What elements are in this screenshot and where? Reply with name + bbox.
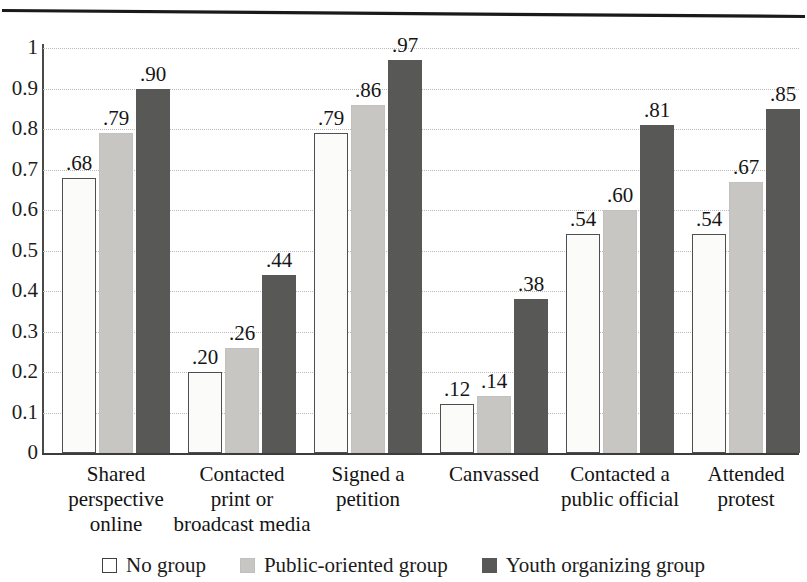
x-axis-line bbox=[42, 453, 799, 455]
bar-4-2 bbox=[640, 125, 674, 453]
bar-3-1 bbox=[477, 396, 511, 453]
bar-4-0 bbox=[566, 234, 600, 453]
category-label-0: Sharedperspectiveonline bbox=[47, 462, 185, 537]
legend-item-1[interactable]: Public-oriented group bbox=[240, 553, 448, 577]
bar-value-label-3-2: .38 bbox=[504, 274, 558, 295]
legend-swatch-icon-0 bbox=[102, 558, 117, 573]
bar-value-label-4-0: .54 bbox=[556, 209, 610, 230]
chart-legend: No groupPublic-oriented groupYouth organ… bbox=[0, 548, 807, 582]
bar-0-0 bbox=[62, 178, 96, 453]
category-label-2: Signed apetition bbox=[299, 462, 437, 512]
bar-1-1 bbox=[225, 348, 259, 453]
y-axis-tick-9: 0.1 bbox=[2, 402, 38, 423]
bar-value-label-2-2: .97 bbox=[378, 35, 432, 56]
y-axis-tick-2: 0.8 bbox=[2, 118, 38, 139]
y-axis-tick-5: 0.5 bbox=[2, 240, 38, 261]
bar-value-label-1-1: .26 bbox=[215, 323, 269, 344]
y-axis-tick-8: 0.2 bbox=[2, 361, 38, 382]
category-label-line: online bbox=[47, 512, 185, 537]
category-label-line: Attended bbox=[677, 462, 807, 487]
y-axis-tick-1: 0.9 bbox=[2, 78, 38, 99]
category-label-line: broadcast media bbox=[173, 512, 311, 537]
y-axis-tick-6: 0.4 bbox=[2, 280, 38, 301]
category-label-1: Contactedprint orbroadcast media bbox=[173, 462, 311, 537]
bar-2-1 bbox=[351, 105, 385, 453]
legend-item-2[interactable]: Youth organizing group bbox=[482, 553, 705, 577]
category-label-line: Shared bbox=[47, 462, 185, 487]
bar-5-1 bbox=[729, 182, 763, 453]
category-label-4: Contacted apublic official bbox=[551, 462, 689, 512]
category-label-line: petition bbox=[299, 487, 437, 512]
y-axis-tick-4: 0.6 bbox=[2, 199, 38, 220]
y-axis-tick-10: 0 bbox=[2, 442, 38, 463]
bar-value-label-2-1: .86 bbox=[341, 80, 395, 101]
bar-value-label-1-2: .44 bbox=[252, 250, 306, 271]
legend-label-0: No group bbox=[126, 553, 206, 577]
bar-4-1 bbox=[603, 210, 637, 453]
plot-area: .68.79.90.20.26.44.79.86.97.12.14.38.54.… bbox=[43, 48, 799, 453]
category-label-line: Canvassed bbox=[425, 462, 563, 487]
bar-1-2 bbox=[262, 275, 296, 453]
category-label-line: Signed a bbox=[299, 462, 437, 487]
bar-value-label-0-2: .90 bbox=[126, 64, 180, 85]
bar-3-2 bbox=[514, 299, 548, 453]
category-label-line: protest bbox=[677, 487, 807, 512]
category-label-5: Attendedprotest bbox=[677, 462, 807, 512]
bar-value-label-0-0: .68 bbox=[52, 153, 106, 174]
bar-2-2 bbox=[388, 60, 422, 453]
bar-value-label-5-0: .54 bbox=[682, 209, 736, 230]
category-label-3: Canvassed bbox=[425, 462, 563, 487]
category-label-line: Contacted bbox=[173, 462, 311, 487]
category-label-line: public official bbox=[551, 487, 689, 512]
legend-label-2: Youth organizing group bbox=[506, 553, 705, 577]
bar-value-label-2-0: .79 bbox=[304, 108, 358, 129]
bar-chart-figure: 10.90.80.70.60.50.40.30.20.10 .68.79.90.… bbox=[0, 0, 807, 582]
legend-swatch-icon-1 bbox=[240, 558, 255, 573]
bar-value-label-1-0: .20 bbox=[178, 347, 232, 368]
bar-3-0 bbox=[440, 404, 474, 453]
y-axis-tick-0: 1 bbox=[2, 37, 38, 58]
y-axis-tick-labels: 10.90.80.70.60.50.40.30.20.10 bbox=[0, 0, 38, 582]
bar-value-label-4-2: .81 bbox=[630, 100, 684, 121]
bar-value-label-3-1: .14 bbox=[467, 371, 521, 392]
bar-value-label-5-2: .85 bbox=[756, 84, 807, 105]
bar-2-0 bbox=[314, 133, 348, 453]
bar-0-2 bbox=[136, 89, 170, 454]
bar-value-label-0-1: .79 bbox=[89, 108, 143, 129]
bar-5-2 bbox=[766, 109, 800, 453]
bar-value-label-4-1: .60 bbox=[593, 185, 647, 206]
legend-swatch-icon-2 bbox=[482, 558, 497, 573]
bar-0-1 bbox=[99, 133, 133, 453]
bar-1-0 bbox=[188, 372, 222, 453]
legend-label-1: Public-oriented group bbox=[264, 553, 448, 577]
y-axis-tick-3: 0.7 bbox=[2, 159, 38, 180]
category-label-line: perspective bbox=[47, 487, 185, 512]
category-label-line: print or bbox=[173, 487, 311, 512]
bar-value-label-5-1: .67 bbox=[719, 157, 773, 178]
y-axis-tick-7: 0.3 bbox=[2, 321, 38, 342]
bar-5-0 bbox=[692, 234, 726, 453]
legend-item-0[interactable]: No group bbox=[102, 553, 206, 577]
category-label-line: Contacted a bbox=[551, 462, 689, 487]
